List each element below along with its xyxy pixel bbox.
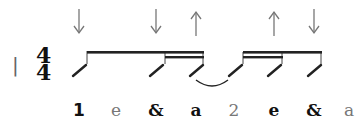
rhythm-notation — [0, 0, 355, 134]
count-a: a — [190, 100, 201, 120]
up-arrow-icon — [191, 12, 201, 36]
count-e: e — [269, 100, 280, 120]
strum-arrows — [74, 9, 319, 36]
slash-noteheads — [73, 65, 321, 76]
up-arrow-icon — [269, 12, 279, 36]
tie — [196, 80, 228, 86]
down-arrow-icon — [151, 9, 161, 33]
down-arrow-icon — [309, 9, 319, 33]
count-and: & — [148, 100, 163, 120]
down-arrow-icon — [74, 9, 84, 33]
count-e: e — [111, 100, 121, 120]
beams — [87, 51, 322, 58]
count-2: 2 — [229, 100, 240, 120]
count-and: & — [306, 100, 321, 120]
count-1: 1 — [73, 100, 85, 120]
count-a: a — [344, 100, 354, 120]
